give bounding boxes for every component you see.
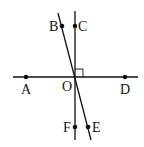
point-C	[73, 24, 78, 29]
point-D	[123, 75, 128, 80]
label-C: C	[78, 19, 87, 34]
label-A: A	[21, 82, 32, 97]
right-angle-mark	[75, 69, 83, 77]
label-F: F	[63, 120, 71, 135]
point-F	[73, 125, 78, 130]
label-B: B	[49, 19, 58, 34]
label-E: E	[92, 120, 101, 135]
label-O: O	[62, 79, 72, 94]
label-D: D	[120, 82, 130, 97]
geometry-diagram: A B C D O E F	[0, 0, 144, 147]
point-B	[60, 24, 65, 29]
point-E	[86, 125, 91, 130]
point-A	[24, 75, 29, 80]
